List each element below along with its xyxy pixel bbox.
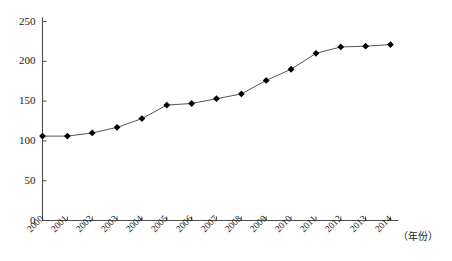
data-point-markers <box>39 41 394 139</box>
y-axis-tick-label: 50 <box>0 175 36 186</box>
data-point-marker <box>64 133 71 140</box>
line-chart: 050100150200250 200020012002200320042005… <box>0 0 452 261</box>
y-axis-tick-label: 250 <box>0 16 36 27</box>
x-axis-title: （年份） <box>398 231 438 242</box>
data-point-marker <box>313 50 320 57</box>
axes <box>43 18 399 221</box>
data-point-marker <box>387 41 394 48</box>
data-point-marker <box>39 133 46 140</box>
data-point-marker <box>263 77 270 84</box>
data-point-marker <box>362 43 369 50</box>
data-point-marker <box>163 102 170 109</box>
data-point-marker <box>213 95 220 102</box>
data-point-marker <box>139 115 146 122</box>
data-point-marker <box>114 124 121 131</box>
data-point-marker <box>89 130 96 137</box>
y-axis-tick-label: 200 <box>0 55 36 66</box>
data-point-marker <box>238 91 245 98</box>
data-point-marker <box>188 100 195 107</box>
y-axis-tick-label: 100 <box>0 135 36 146</box>
y-axis-tick-label: 150 <box>0 95 36 106</box>
data-point-marker <box>288 66 295 73</box>
data-series-line <box>43 45 391 137</box>
data-point-marker <box>337 44 344 51</box>
axis-ticks <box>43 22 391 221</box>
